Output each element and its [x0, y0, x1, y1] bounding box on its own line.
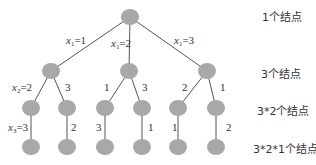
- edge-label-x1-1: x1=1: [66, 35, 86, 50]
- edge-label: 2: [71, 122, 77, 133]
- level2-node: [120, 63, 138, 79]
- edge-label: 3: [96, 122, 102, 133]
- level3-node: [207, 100, 225, 116]
- leaf-node: [96, 139, 114, 155]
- value: =1: [74, 34, 86, 46]
- value: =2: [119, 37, 131, 49]
- value: =3: [16, 121, 28, 133]
- level3-node: [133, 100, 151, 116]
- edge-label: 3: [142, 82, 148, 93]
- edge-label: 1: [148, 122, 154, 133]
- value: =3: [182, 34, 194, 46]
- level-4-count: 3*2*1个结点: [253, 140, 316, 156]
- level3-node: [22, 100, 40, 116]
- level3-node: [96, 100, 114, 116]
- leaf-node: [58, 139, 76, 155]
- leaf-node: [207, 139, 225, 155]
- level3-node: [169, 100, 187, 116]
- edge-label: 3: [65, 82, 71, 93]
- edge-label: 1: [172, 122, 178, 133]
- root-node: [121, 9, 139, 25]
- edge-label-x1-2: x1=2: [111, 38, 131, 53]
- edge-label: 2: [226, 122, 232, 133]
- edge-label: 1: [104, 82, 110, 93]
- leaf-node: [169, 139, 187, 155]
- edge-label-x2-2: x2=2: [12, 82, 32, 97]
- leaf-node: [22, 139, 40, 155]
- value: =2: [20, 81, 32, 93]
- level-3-count: 3*2个结点: [257, 102, 310, 118]
- edge-label-x3-3: x3=3: [8, 122, 28, 137]
- level2-node: [198, 63, 216, 79]
- leaf-node: [133, 139, 151, 155]
- level-2-count: 3个结点: [261, 65, 301, 81]
- edge-label: 1: [220, 82, 226, 93]
- level-1-count: 1个结点: [262, 8, 302, 24]
- level3-node: [58, 100, 76, 116]
- level2-node: [42, 63, 60, 79]
- nodes: [22, 9, 225, 155]
- edge-label: 2: [182, 82, 188, 93]
- edge-label-x1-3: x1=3: [174, 35, 194, 50]
